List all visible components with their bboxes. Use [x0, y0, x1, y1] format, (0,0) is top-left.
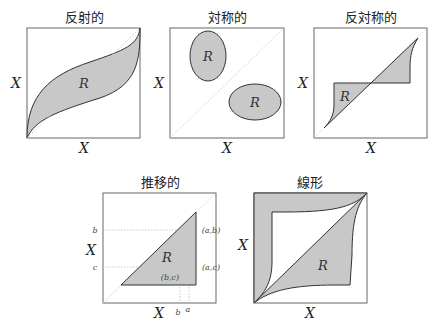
y-axis-label: X — [85, 242, 97, 258]
x-axis-label: X — [304, 305, 316, 321]
panel-antisymmetric: 反対称的 R X X — [297, 10, 427, 156]
x-tick-b: b — [175, 308, 180, 317]
x-tick-a: a — [186, 305, 191, 314]
y-tick-c: c — [93, 263, 98, 272]
region-label: R — [78, 76, 89, 91]
x-axis-label: X — [153, 305, 165, 321]
x-axis-label: X — [365, 140, 377, 156]
panel-title: 線形 — [297, 175, 323, 190]
region-label: R — [161, 250, 172, 265]
panel-transitive: 推移的 R (a,b) (a,c) (b,c) b c b a X X — [85, 175, 220, 321]
x-axis-label: X — [221, 140, 233, 156]
panel-reflexive: 反射的 R X X — [10, 10, 140, 156]
panel-title: 反射的 — [65, 10, 104, 25]
region-label: R — [339, 89, 350, 104]
y-axis-label: X — [10, 75, 22, 91]
x-axis-label: X — [78, 140, 90, 156]
panel-title: 反対称的 — [345, 10, 397, 25]
point-label-ac: (a,c) — [202, 263, 220, 272]
panel-title: 対称的 — [208, 10, 247, 25]
y-axis-label: X — [237, 237, 249, 253]
y-axis-label: X — [297, 75, 309, 91]
panel-linear: 線形 R X X — [237, 175, 367, 321]
panel-title: 推移的 — [141, 175, 180, 190]
region-label-lower: R — [249, 95, 260, 110]
y-tick-b: b — [92, 226, 97, 235]
relation-diagrams: 反射的 R X X 対称的 R R X X 反対称的 R X X 推移的 — [0, 0, 440, 330]
region-label-upper: R — [202, 49, 213, 64]
region-label: R — [317, 258, 328, 273]
y-axis-label: X — [153, 75, 165, 91]
point-label-ab: (a,b) — [202, 226, 221, 235]
panel-symmetric: 対称的 R R X X — [153, 10, 284, 156]
point-label-bc: (b,c) — [161, 273, 179, 282]
